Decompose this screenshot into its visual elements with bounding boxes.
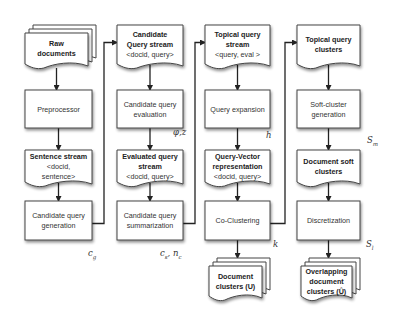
topical-query-stream-label-line: Topical query xyxy=(214,30,260,39)
soft-cluster-generation-label-line: generation xyxy=(312,110,346,119)
edge-candidate-query-generation-to-candidate-query-stream xyxy=(92,43,117,224)
param-k: k xyxy=(273,239,278,249)
overlapping-document-clusters: Overlappingdocumentclusters (Û) xyxy=(301,258,360,301)
candidate-query-stream-label-line: Query stream xyxy=(127,40,173,49)
topical-query-stream: Topical querystream<query, eval > xyxy=(205,25,270,69)
param-c-s-n-c: cs, nc xyxy=(160,248,182,260)
raw-documents-label-line: Raw xyxy=(49,39,64,48)
query-expansion-label-line: Query expansion xyxy=(210,105,264,114)
edges-layer xyxy=(57,43,329,259)
preprocessor: Preprocessor xyxy=(25,90,92,128)
evaluated-query-stream: Evaluated querystream<docid, query> xyxy=(117,150,183,187)
param-s-m: Sm xyxy=(367,135,378,147)
raw-documents: Rawdocuments xyxy=(25,25,96,69)
edge-co-clustering-to-topical-query-clusters xyxy=(270,43,297,224)
candidate-query-generation: Candidate querygeneration xyxy=(25,201,92,240)
overlapping-document-clusters-label-line: clusters (Û) xyxy=(307,287,347,296)
topical-query-stream-label-line: stream xyxy=(226,40,250,49)
pipeline-diagram: RawdocumentsPreprocessorSentence stream<… xyxy=(0,0,393,316)
document-clusters-label-line: Document xyxy=(218,272,254,281)
preprocessor-label-line: Preprocessor xyxy=(37,105,80,114)
param-c-g: cg xyxy=(88,248,97,261)
sentence-stream-label-line: <docid, xyxy=(47,162,70,171)
topical-query-clusters: Topical queryclusters xyxy=(297,25,360,69)
param-phi-z: φ,z xyxy=(173,127,187,137)
document-soft-clusters-label-line: clusters xyxy=(315,167,343,176)
candidate-query-summarization-label-line: summarization xyxy=(127,221,174,230)
sentence-stream-label-line: Sentence stream xyxy=(30,152,88,161)
topical-query-clusters-label-line: clusters xyxy=(315,45,343,54)
evaluated-query-stream-label-line: <docid, query> xyxy=(126,172,174,181)
candidate-query-generation-label-line: Candidate query xyxy=(32,211,85,220)
candidate-query-summarization-label-line: Candidate query xyxy=(124,211,177,220)
candidate-query-evaluation-label-line: evaluation xyxy=(134,110,167,119)
candidate-query-generation-label-line: generation xyxy=(42,221,76,230)
edge-candidate-query-summarization-to-topical-query-stream xyxy=(183,43,205,224)
co-clustering-label-line: Co-Clustering xyxy=(216,216,260,225)
query-vector-representation-label-line: Query-Vector xyxy=(215,152,260,161)
candidate-query-evaluation-label-line: Candidate query xyxy=(124,100,177,109)
co-clustering: Co-Clustering xyxy=(205,201,270,240)
sentence-stream: Sentence stream<docid,sentence> xyxy=(25,150,92,187)
query-vector-representation-label-line: representation xyxy=(213,162,263,171)
query-expansion: Query expansion xyxy=(205,90,270,128)
overlapping-document-clusters-label-line: document xyxy=(309,277,344,286)
sentence-stream-label-line: sentence> xyxy=(42,172,75,181)
document-clusters: Documentclusters (U) xyxy=(209,258,270,301)
candidate-query-stream-label-line: <docid, query> xyxy=(126,50,174,59)
param-s-l: Sl xyxy=(366,239,374,251)
raw-documents-label-line: documents xyxy=(37,49,75,58)
nodes-layer: RawdocumentsPreprocessorSentence stream<… xyxy=(25,25,360,301)
param-h: h xyxy=(266,130,271,140)
topical-query-clusters-label-line: Topical query xyxy=(305,35,351,44)
evaluated-query-stream-label-line: stream xyxy=(138,162,162,171)
candidate-query-evaluation: Candidate queryevaluation xyxy=(117,90,183,128)
candidate-query-stream: CandidateQuery stream<docid, query> xyxy=(117,25,183,69)
evaluated-query-stream-label-line: Evaluated query xyxy=(122,152,178,161)
discretization-label-line: Discretization xyxy=(307,216,350,225)
document-soft-clusters-label-line: Document soft xyxy=(303,157,354,166)
query-vector-representation: Query-Vectorrepresentation<docid, query> xyxy=(205,150,270,187)
soft-cluster-generation-label-line: Soft-cluster xyxy=(310,100,347,109)
document-clusters-label-line: clusters (U) xyxy=(216,282,256,291)
document-soft-clusters: Document softclusters xyxy=(297,150,360,187)
discretization: Discretization xyxy=(297,201,360,240)
overlapping-document-clusters-label-line: Overlapping xyxy=(306,267,348,276)
soft-cluster-generation: Soft-clustergeneration xyxy=(297,90,360,128)
topical-query-stream-label-line: <query, eval > xyxy=(215,50,260,59)
candidate-query-stream-label-line: Candidate xyxy=(133,30,168,39)
query-vector-representation-label-line: <docid, query> xyxy=(214,172,262,181)
candidate-query-summarization: Candidate querysummarization xyxy=(117,201,183,240)
